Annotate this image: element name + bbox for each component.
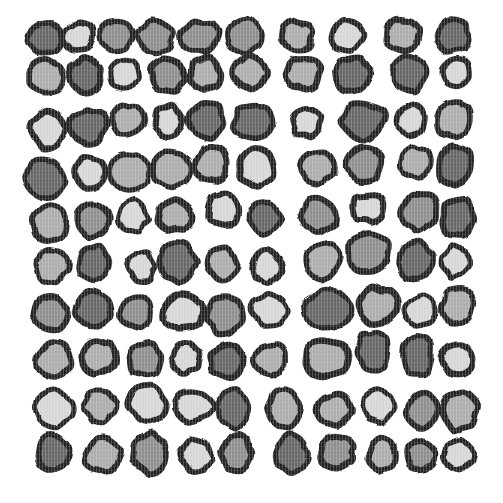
pebble xyxy=(286,59,322,89)
pebble xyxy=(188,103,223,139)
pebble xyxy=(227,18,263,53)
pebble xyxy=(442,59,469,87)
pebble xyxy=(397,104,424,135)
pebble xyxy=(34,390,73,428)
pebble xyxy=(400,146,431,178)
pebble xyxy=(442,199,474,236)
pebble xyxy=(208,193,238,225)
pebble xyxy=(439,145,471,185)
pebble xyxy=(29,59,64,93)
pebble xyxy=(331,20,364,51)
pebble xyxy=(233,105,273,138)
pebble xyxy=(349,234,389,272)
pebble xyxy=(275,433,309,473)
pebble xyxy=(175,391,214,422)
pebble xyxy=(300,151,335,184)
pebble xyxy=(132,432,167,474)
pebble xyxy=(207,297,243,334)
pebble xyxy=(240,148,274,188)
pebble xyxy=(100,21,133,50)
pebble xyxy=(406,392,438,429)
pebble xyxy=(82,391,118,424)
pebble xyxy=(353,195,384,223)
pebble xyxy=(221,434,251,471)
pebble xyxy=(392,56,427,92)
pebble xyxy=(208,247,238,280)
pebble xyxy=(367,437,394,471)
pebble xyxy=(151,59,186,92)
pebble xyxy=(109,155,149,190)
pebble xyxy=(77,204,109,237)
pebble xyxy=(162,294,203,328)
pebble xyxy=(160,242,197,283)
pebble xyxy=(34,297,69,330)
pebble xyxy=(78,245,110,282)
pebble xyxy=(320,436,353,468)
pebble xyxy=(62,22,93,50)
pebble xyxy=(128,344,161,376)
pebble xyxy=(153,152,190,187)
pebble xyxy=(341,103,385,140)
pebble xyxy=(36,341,72,378)
pebble xyxy=(436,19,469,52)
pebble xyxy=(27,23,61,53)
pebble xyxy=(232,55,267,89)
pebble xyxy=(33,205,66,241)
pebble xyxy=(75,157,105,188)
pebble xyxy=(387,20,420,51)
pebble-pattern-canvas xyxy=(0,0,503,503)
pebble xyxy=(252,250,282,283)
pebble xyxy=(171,342,200,374)
pebble xyxy=(35,250,69,283)
pebble xyxy=(111,104,145,135)
pebble xyxy=(359,287,398,325)
pebble xyxy=(158,200,194,231)
pebble xyxy=(267,388,302,428)
pebble xyxy=(442,392,478,432)
pebble xyxy=(179,439,213,472)
pebble xyxy=(82,340,116,374)
pebble xyxy=(304,288,352,328)
pebble xyxy=(292,109,321,137)
pebble xyxy=(317,394,352,426)
pebble xyxy=(407,441,435,470)
pebble xyxy=(357,332,388,371)
pebble xyxy=(248,202,283,236)
pebble xyxy=(70,110,107,144)
pebble xyxy=(191,57,221,90)
pebble xyxy=(84,438,121,472)
pebble xyxy=(37,434,69,470)
pebble xyxy=(69,58,100,93)
pebble xyxy=(437,102,470,137)
pebble xyxy=(306,243,341,278)
pebble xyxy=(441,289,473,324)
pebble xyxy=(440,344,473,375)
pebble xyxy=(128,386,166,422)
pebble xyxy=(251,294,288,327)
pebble xyxy=(217,389,249,428)
pebble xyxy=(347,148,382,182)
pebble xyxy=(254,344,285,375)
pebble xyxy=(209,345,244,378)
pebble xyxy=(118,297,150,329)
pebble xyxy=(30,111,65,150)
pebble-field xyxy=(0,0,503,503)
pebble xyxy=(399,241,433,278)
pebble xyxy=(155,105,183,137)
pebble xyxy=(127,252,155,281)
pebble xyxy=(336,57,371,91)
pebble xyxy=(281,21,313,51)
pebble xyxy=(363,389,394,423)
pebble xyxy=(76,291,112,326)
pebble xyxy=(180,22,218,53)
pebble xyxy=(441,246,470,278)
pebble xyxy=(194,147,227,181)
pebble xyxy=(403,336,432,376)
pebble xyxy=(110,59,140,88)
pebble xyxy=(25,159,65,198)
pebble xyxy=(401,194,436,232)
pebble xyxy=(444,440,474,470)
pebble xyxy=(306,342,350,378)
pebble xyxy=(404,295,436,325)
pebble xyxy=(118,199,150,232)
